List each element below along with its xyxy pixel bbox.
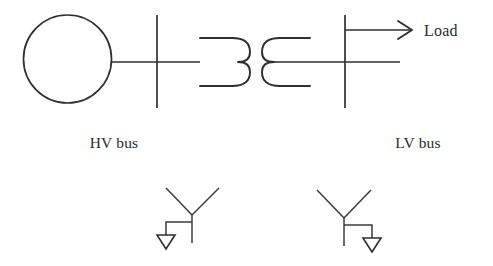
wye-grounded-left-symbol [157,188,219,249]
wye-right-neutral-tap [344,225,372,238]
load-label: Load [424,22,458,39]
wye-left-arm-upright [192,188,219,215]
generator-circle-icon [24,15,112,103]
wye-right-arm-upright [344,190,371,218]
lv-bus-label: LV bus [395,134,441,151]
wye-right-arm-upleft [317,190,344,218]
ground-triangle-icon-left [157,235,175,249]
single-line-diagram: Load HV bus LV bus [0,0,493,266]
wye-left-neutral-tap [166,222,192,235]
diagram-canvas: Load HV bus LV bus [0,0,493,266]
wye-left-arm-upleft [166,188,192,215]
transformer-primary-winding-icon [200,38,250,86]
hv-bus-label: HV bus [90,134,139,151]
wye-grounded-right-symbol [317,190,381,252]
ground-triangle-icon-right [363,238,381,252]
